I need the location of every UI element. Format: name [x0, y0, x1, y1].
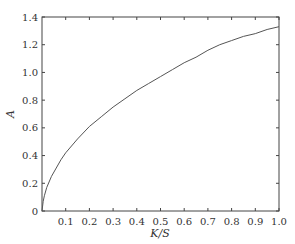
x-tick-label: 0.7: [200, 216, 216, 227]
plot-area: [42, 17, 279, 211]
x-axis-label: K/S: [149, 227, 170, 240]
y-tick-label: 0.6: [22, 122, 38, 133]
y-tick-label: 0: [32, 206, 38, 217]
x-tick-label: 0.4: [129, 216, 145, 227]
x-tick-label: 0.6: [176, 216, 192, 227]
y-tick-label: 0.2: [22, 178, 38, 189]
y-tick-label: 1.0: [22, 67, 38, 78]
y-tick-label: 1.2: [22, 39, 38, 50]
line-chart: 0.10.20.30.40.50.60.70.80.91.0 00.20.40.…: [0, 0, 295, 244]
x-tick-label: 0.1: [58, 216, 74, 227]
y-tick-label: 0.4: [22, 150, 38, 161]
y-tick-label: 1.4: [22, 12, 38, 23]
x-tick-label: 1.0: [271, 216, 287, 227]
x-tick-label: 0.9: [247, 216, 263, 227]
x-tick-label: 0.3: [105, 216, 121, 227]
y-tick-label: 0.8: [22, 95, 38, 106]
x-tick-label: 0.8: [224, 216, 240, 227]
x-tick-label: 0.2: [81, 216, 97, 227]
x-tick-label: 0.5: [153, 216, 169, 227]
y-axis-label: A: [4, 110, 17, 119]
